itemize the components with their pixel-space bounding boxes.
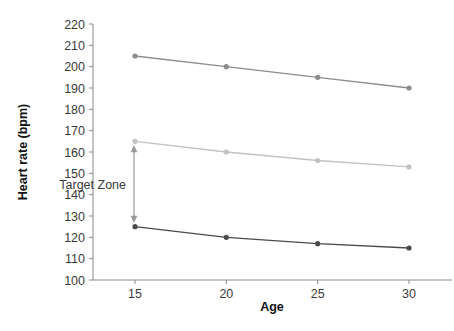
y-tick-label: 160 <box>64 146 85 160</box>
x-axis-title: Age <box>260 300 284 314</box>
series-maximum-heart-rate <box>132 53 411 90</box>
x-tick-label: 20 <box>219 287 233 301</box>
x-axis-ticks <box>135 280 409 284</box>
data-series-group <box>132 53 411 250</box>
y-tick-label: 170 <box>64 124 85 138</box>
series-line <box>135 227 409 248</box>
series-line <box>135 56 409 88</box>
x-axis-tick-labels: 15202530 <box>128 287 416 301</box>
y-axis-title: Heart rate (bpm) <box>16 104 30 201</box>
y-tick-label: 200 <box>64 60 85 74</box>
data-point <box>315 75 320 80</box>
data-point <box>224 149 229 154</box>
data-point <box>224 64 229 69</box>
x-tick-label: 30 <box>402 287 416 301</box>
y-axis-tick-labels: 100110120130140150160170180190200210220 <box>64 18 85 288</box>
y-tick-label: 100 <box>64 274 85 288</box>
x-tick-label: 25 <box>311 287 325 301</box>
series-lower-target-limit <box>132 224 411 251</box>
series-upper-target-limit <box>132 139 411 170</box>
y-tick-label: 210 <box>64 39 85 53</box>
target-zone-arrowhead-up <box>131 145 138 152</box>
data-point <box>406 164 411 169</box>
data-point <box>315 158 320 163</box>
data-point <box>132 53 137 58</box>
data-point <box>406 245 411 250</box>
data-point <box>406 85 411 90</box>
y-tick-label: 220 <box>64 18 85 32</box>
data-point <box>132 139 137 144</box>
target-zone-arrowhead-down <box>131 216 138 223</box>
data-point <box>224 235 229 240</box>
y-tick-label: 190 <box>64 82 85 96</box>
y-tick-label: 120 <box>64 231 85 245</box>
axes-group <box>89 24 452 284</box>
y-tick-label: 130 <box>64 210 85 224</box>
data-point <box>132 224 137 229</box>
target-zone-label: Target Zone <box>59 178 126 192</box>
series-line <box>135 141 409 167</box>
y-tick-label: 180 <box>64 103 85 117</box>
heart-rate-chart: 100110120130140150160170180190200210220 … <box>0 0 454 331</box>
y-axis-ticks <box>89 24 93 280</box>
data-point <box>315 241 320 246</box>
y-tick-label: 110 <box>65 252 85 266</box>
chart-canvas: 100110120130140150160170180190200210220 … <box>0 0 454 331</box>
x-tick-label: 15 <box>128 287 142 301</box>
